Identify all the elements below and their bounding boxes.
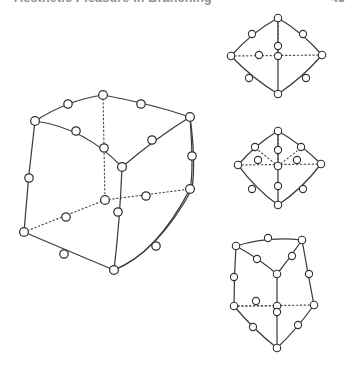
- middle-right-corner-nodes: [234, 127, 324, 208]
- node-vertex: [118, 163, 127, 172]
- node-vertex: [298, 236, 305, 243]
- node-vertex: [227, 52, 234, 59]
- node-vertex: [20, 228, 29, 237]
- node-subdivision: [273, 308, 280, 315]
- node-vertex: [310, 301, 317, 308]
- node-subdivision: [253, 255, 260, 262]
- node-vertex: [317, 160, 324, 167]
- node-vertex: [230, 302, 237, 309]
- node-vertex: [274, 90, 281, 97]
- page-canvas: Aesthetic Pleasure in Branching 45: [0, 0, 355, 367]
- node-subdivision: [148, 136, 156, 144]
- node-vertex: [232, 242, 239, 249]
- node-vertex-hidden: [101, 196, 110, 205]
- node-vertex: [274, 201, 281, 208]
- node-subdivision: [288, 252, 295, 259]
- node-vertex: [318, 51, 325, 58]
- node-subdivision: [293, 156, 300, 163]
- node-subdivision: [230, 273, 237, 280]
- node-subdivision: [152, 242, 160, 250]
- node-subdivision: [274, 182, 281, 189]
- main-cube-vertical-edges: [24, 117, 194, 270]
- bottom-right-solid-edges: [234, 239, 314, 348]
- node-subdivision: [274, 52, 281, 59]
- panel-bottom-right: [230, 234, 317, 351]
- panel-main-cube: [20, 91, 197, 275]
- node-vertex: [186, 185, 195, 194]
- node-subdivision: [274, 42, 281, 49]
- node-subdivision: [264, 234, 271, 241]
- panel-top-right: [227, 14, 325, 97]
- node-subdivision: [60, 250, 68, 258]
- node-subdivision: [188, 152, 196, 160]
- node-vertex: [99, 91, 108, 100]
- node-subdivision: [114, 208, 122, 216]
- node-subdivision: [25, 174, 33, 182]
- node-subdivision: [254, 156, 261, 163]
- node-subdivision: [248, 30, 255, 37]
- graph-figure-svg: [0, 0, 355, 367]
- node-subdivision: [248, 185, 255, 192]
- node-subdivision: [142, 192, 150, 200]
- node-vertex: [186, 113, 195, 122]
- figure-canvas: [0, 0, 355, 367]
- node-subdivision: [137, 100, 145, 108]
- node-subdivision: [64, 100, 72, 108]
- top-right-hidden-edges: [231, 18, 322, 56]
- main-cube-hidden-edges: [24, 95, 190, 232]
- node-subdivision: [72, 127, 80, 135]
- node-subdivision: [299, 30, 306, 37]
- node-vertex: [234, 161, 241, 168]
- node-subdivision: [62, 213, 70, 221]
- node-vertex: [31, 117, 40, 126]
- node-subdivision: [249, 323, 256, 330]
- node-subdivision: [252, 297, 259, 304]
- node-vertex: [110, 266, 119, 275]
- node-vertex: [273, 270, 280, 277]
- node-subdivision: [251, 143, 258, 150]
- node-subdivision: [299, 185, 306, 192]
- main-cube-top-face-edges: [35, 95, 190, 167]
- node-subdivision: [302, 74, 309, 81]
- running-footer: [0, 358, 355, 367]
- node-subdivision: [305, 270, 312, 277]
- node-vertex: [273, 344, 280, 351]
- node-subdivision: [100, 144, 108, 152]
- main-cube-corner-nodes: [20, 91, 195, 275]
- node-vertex: [274, 127, 281, 134]
- node-vertex-center: [274, 162, 281, 169]
- node-vertex: [274, 14, 281, 21]
- node-subdivision: [297, 143, 304, 150]
- panel-middle-right: [234, 127, 324, 208]
- node-subdivision: [274, 146, 281, 153]
- node-subdivision: [245, 74, 252, 81]
- node-subdivision: [294, 321, 301, 328]
- node-subdivision: [255, 51, 262, 58]
